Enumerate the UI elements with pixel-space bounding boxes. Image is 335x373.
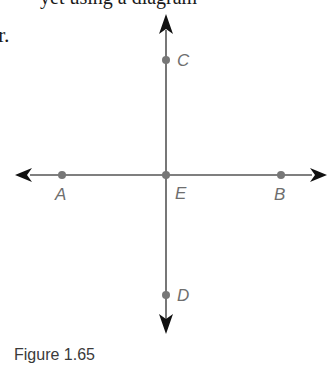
arrow-right-icon bbox=[310, 168, 327, 182]
point-b bbox=[277, 171, 285, 179]
label-e: E bbox=[175, 184, 187, 203]
label-a: A bbox=[54, 185, 66, 204]
perpendicular-lines-diagram: A B C D E bbox=[0, 0, 335, 373]
point-c bbox=[162, 56, 170, 64]
point-e bbox=[162, 171, 170, 179]
point-d bbox=[162, 291, 170, 299]
label-b: B bbox=[274, 185, 285, 204]
figure-caption: Figure 1.65 bbox=[14, 346, 95, 364]
arrow-left-icon bbox=[15, 168, 32, 182]
label-d: D bbox=[177, 286, 189, 305]
point-a bbox=[58, 171, 66, 179]
label-c: C bbox=[177, 51, 190, 70]
